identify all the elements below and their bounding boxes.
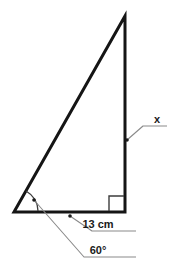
unknown-side-leader-dot bbox=[125, 138, 129, 142]
right-angle-marker-icon bbox=[109, 196, 124, 211]
angle-leader-dot bbox=[32, 198, 36, 202]
base-leader-dot bbox=[68, 214, 72, 218]
unknown-side-leader-line bbox=[127, 126, 167, 140]
triangle-figure-svg: 13 cm 60° x bbox=[0, 0, 171, 277]
triangle-outline bbox=[14, 16, 125, 212]
unknown-side-label: x bbox=[154, 113, 161, 125]
angle-arc-icon bbox=[26, 191, 38, 211]
base-length-label: 13 cm bbox=[82, 218, 113, 230]
geometry-diagram: 13 cm 60° x bbox=[0, 0, 171, 277]
angle-label: 60° bbox=[90, 244, 107, 256]
